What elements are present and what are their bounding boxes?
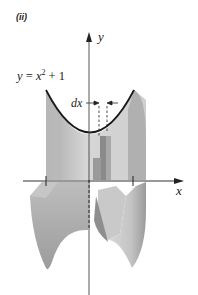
solid-of-revolution-figure: (ii) y x y = x2 + 1 dx: [0, 0, 198, 295]
x-axis-label: x: [176, 183, 182, 199]
dx-arrows-icon: [86, 101, 118, 105]
equation-equals: =: [23, 69, 36, 83]
y-axis-label: y: [98, 29, 104, 45]
y-axis-arrow-icon: [86, 32, 92, 42]
equation-rest: + 1: [45, 69, 65, 83]
equation-label: y = x2 + 1: [17, 68, 65, 84]
dx-label: dx: [71, 96, 82, 111]
figure-part-label: (ii): [16, 12, 27, 22]
lower-solid: [30, 182, 146, 269]
